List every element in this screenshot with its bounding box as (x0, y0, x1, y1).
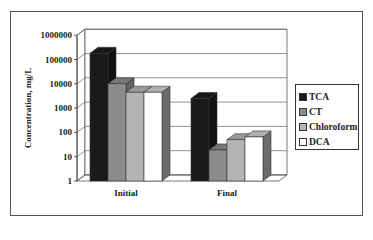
y-tick-label: 1 (68, 176, 73, 186)
y-axis-label: Concentration, mg/L (23, 68, 33, 149)
x-category-label: Final (217, 188, 238, 198)
legend-swatch-icon (299, 123, 307, 131)
y-tick-label: 10 (63, 152, 73, 162)
y-tick-label: 100 (59, 127, 73, 137)
x-axis: InitialFinal (114, 188, 237, 198)
y-tick-label: 10000 (50, 79, 73, 89)
legend-swatch-icon (299, 108, 307, 116)
legend-swatch-icon (299, 138, 307, 146)
y-tick-label: 1000000 (41, 30, 73, 40)
legend: TCACTChloroformDCA (295, 84, 359, 150)
x-category-label: Initial (114, 188, 138, 198)
y-tick-label: 1000 (54, 103, 73, 113)
y-axis: 1101001000100001000001000000 (41, 30, 78, 186)
legend-label: TCA (309, 92, 329, 102)
legend-swatch-icon (299, 93, 307, 101)
legend-item: CT (299, 104, 358, 119)
legend-label: Chloroform (309, 122, 357, 132)
y-tick-label: 100000 (45, 55, 73, 65)
legend-item: TCA (299, 89, 358, 104)
bar-initial-dca (144, 86, 170, 181)
legend-item: DCA (299, 134, 358, 149)
legend-item: Chloroform (299, 119, 358, 134)
legend-label: CT (309, 107, 322, 117)
bar-final-dca (245, 131, 271, 181)
legend-label: DCA (309, 137, 330, 147)
